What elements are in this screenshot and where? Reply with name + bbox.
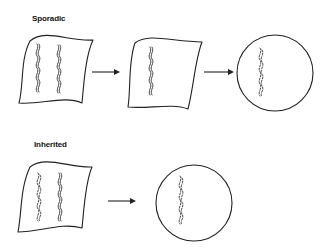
- inherited-stage-2-circle: [156, 165, 232, 241]
- sporadic-stage-3-circle: [237, 35, 313, 111]
- sporadic-stage-1-cell: [19, 35, 93, 103]
- cell-sheet-outline: [19, 35, 93, 103]
- chromosome-pair-icon: [36, 44, 40, 92]
- inherited-arrow-1: [108, 198, 136, 204]
- chromosome-pair-icon: [58, 173, 62, 221]
- cell-circle-outline: [156, 165, 232, 241]
- diagram-canvas: [0, 0, 326, 249]
- cell-sheet-outline: [18, 162, 92, 232]
- chromosome-pair-icon: [57, 45, 61, 93]
- inherited-stage-1-cell: [18, 162, 92, 232]
- cell-sheet-outline: [128, 38, 202, 109]
- chromosome-pair-icon: [149, 47, 153, 95]
- fragmented-chromosome-icon: [179, 176, 183, 224]
- fragmented-chromosome-icon: [259, 48, 263, 96]
- sporadic-arrow-2: [204, 69, 234, 75]
- cell-circle-outline: [237, 35, 313, 111]
- sporadic-stage-2-cell: [128, 38, 202, 109]
- fragmented-chromosome-icon: [37, 173, 41, 221]
- sporadic-arrow-1: [92, 69, 120, 75]
